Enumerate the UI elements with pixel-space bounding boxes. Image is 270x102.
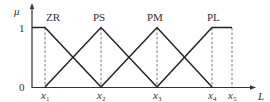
membership-function-diagram: μ 1 0 L ZR PS PM PL x1 x2 x3 x4 x5: [0, 0, 270, 102]
x-axis-arrow-icon: [250, 85, 256, 89]
y-axis-label: μ: [13, 5, 20, 17]
svg-text:x4: x4: [207, 89, 217, 102]
x-tick-labels: x1 x2 x3 x4 x5: [40, 89, 237, 102]
svg-text:x2: x2: [96, 89, 106, 102]
svg-text:x3: x3: [152, 89, 162, 102]
curve-zr: [32, 28, 101, 88]
y-axis-arrow-icon: [30, 3, 34, 9]
y-tick-0: 0: [19, 81, 25, 93]
svg-text:x1: x1: [40, 89, 50, 102]
set-label-pl: PL: [207, 11, 220, 23]
membership-curves: [32, 28, 232, 88]
curve-pm: [101, 28, 212, 88]
set-label-pm: PM: [147, 11, 163, 23]
set-label-ps: PS: [93, 11, 105, 23]
x-axis-label: L: [257, 90, 264, 102]
set-label-zr: ZR: [46, 11, 61, 23]
y-tick-1: 1: [19, 22, 25, 34]
curve-pl: [157, 28, 232, 88]
svg-text:x5: x5: [227, 89, 237, 102]
